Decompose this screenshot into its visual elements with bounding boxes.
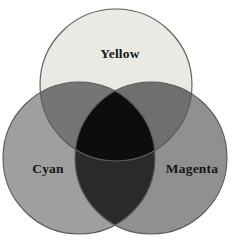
yellow-label: Yellow [100, 46, 139, 61]
venn-diagram: Yellow Cyan Magenta [0, 0, 234, 245]
cyan-label: Cyan [32, 161, 64, 176]
venn-diagram-canvas: Yellow Cyan Magenta [0, 0, 234, 245]
magenta-label: Magenta [166, 161, 218, 176]
